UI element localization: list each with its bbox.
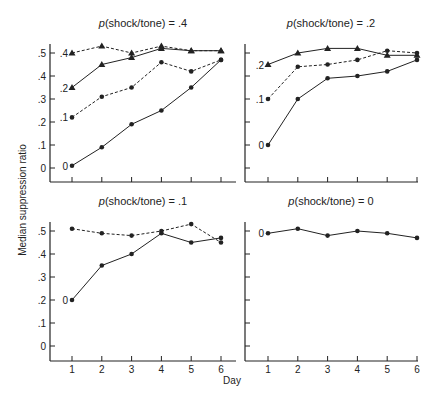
x-tick-label: 4 <box>159 364 165 375</box>
title-variable: p <box>287 195 294 207</box>
series-label: 0 <box>62 295 68 306</box>
x-tick-label: 1 <box>265 364 271 375</box>
title-condition: (shock/tone) = 0 <box>294 195 373 207</box>
dot-marker <box>159 60 164 65</box>
dot-marker <box>189 240 194 245</box>
title-condition: (shock/tone) = .1 <box>105 195 187 207</box>
panel-p01: p(shock/tone) = .1.5.4.3.2.101234560 <box>38 195 236 375</box>
dot-marker <box>100 263 105 268</box>
series-line <box>268 60 417 145</box>
dot-marker <box>266 143 271 148</box>
y-tick-label: .5 <box>38 48 47 59</box>
dot-marker <box>296 226 301 231</box>
dot-marker <box>296 97 301 102</box>
series-label: .2 <box>60 83 69 94</box>
dot-marker <box>70 163 75 168</box>
triangle-marker <box>69 84 76 90</box>
y-tick-label: .1 <box>38 140 47 151</box>
series-p2: .2 <box>60 45 225 94</box>
dot-marker <box>219 58 224 63</box>
dot-marker <box>415 236 420 241</box>
dot-marker <box>296 65 301 70</box>
x-tick-label: 6 <box>414 364 420 375</box>
x-tick-label: 2 <box>99 364 105 375</box>
dot-marker <box>70 298 75 303</box>
series-0: 0 <box>258 58 419 151</box>
dot-marker <box>159 108 164 113</box>
dot-marker <box>385 69 390 74</box>
x-tick-label: 5 <box>188 364 194 375</box>
dot-marker <box>70 115 75 120</box>
dot-marker <box>129 252 134 257</box>
panel-title: p(shock/tone) = .2 <box>286 17 375 29</box>
dot-marker <box>266 231 271 236</box>
dot-marker <box>219 240 224 245</box>
title-variable: p <box>98 17 105 29</box>
dot-marker <box>100 231 105 236</box>
y-tick-label: .1 <box>38 318 47 329</box>
dot-marker <box>129 85 134 90</box>
panel-title: p(shock/tone) = 0 <box>287 195 373 207</box>
dot-marker <box>355 229 360 234</box>
series-label: 0 <box>258 228 264 239</box>
dot-marker <box>266 97 271 102</box>
x-tick-label: 5 <box>384 364 390 375</box>
x-tick-label: 6 <box>218 364 224 375</box>
dot-marker <box>415 58 420 63</box>
panel-p00: p(shock/tone) = 01234560 <box>245 195 420 375</box>
title-variable: p <box>98 195 105 207</box>
x-tick-label: 2 <box>295 364 301 375</box>
y-tick-label: .3 <box>38 272 47 283</box>
dot-marker <box>219 236 224 241</box>
series-line <box>268 229 417 238</box>
x-tick-label: 1 <box>69 364 75 375</box>
dot-marker <box>189 85 194 90</box>
dot-marker <box>100 145 105 150</box>
x-tick-label: 3 <box>325 364 331 375</box>
series-label: .1 <box>256 94 265 105</box>
series-line <box>72 48 221 87</box>
series-line <box>72 60 221 118</box>
dot-marker <box>385 231 390 236</box>
panel-title: p(shock/tone) = .4 <box>98 17 187 29</box>
dot-marker <box>325 233 330 238</box>
dot-marker <box>159 231 164 236</box>
series-label: .1 <box>60 112 69 123</box>
triangle-marker <box>98 43 105 49</box>
x-tick-label: 3 <box>129 364 135 375</box>
y-tick-label: .3 <box>38 94 47 105</box>
series-p1: .1 <box>60 58 224 124</box>
title-condition: (shock/tone) = .4 <box>105 17 187 29</box>
series-p2: .2 <box>256 45 421 71</box>
y-axis-label: Median suppression ratio <box>17 144 28 256</box>
series-label: 0 <box>62 161 68 172</box>
dot-marker <box>129 233 134 238</box>
series-line <box>72 224 221 242</box>
dot-marker <box>355 74 360 79</box>
dot-marker <box>189 222 194 227</box>
series-line <box>72 46 221 53</box>
dot-marker <box>100 94 105 99</box>
series-0: 0 <box>62 231 223 306</box>
panel-p04: p(shock/tone) = .4.5.4.3.2.10.4.2.10 <box>38 17 236 182</box>
dot-marker <box>129 122 134 127</box>
dot-marker <box>355 58 360 63</box>
y-tick-label: .5 <box>38 226 47 237</box>
panel-title: p(shock/tone) = .1 <box>98 195 187 207</box>
x-axis-label: Day <box>223 375 241 386</box>
dot-marker <box>325 62 330 67</box>
series-label: .4 <box>60 48 69 59</box>
y-tick-label: .2 <box>38 117 47 128</box>
series-label: .2 <box>256 60 265 71</box>
series-line <box>72 233 221 300</box>
dot-marker <box>325 76 330 81</box>
series-0: 0 <box>258 226 419 240</box>
y-tick-label: .2 <box>38 295 47 306</box>
title-variable: p <box>286 17 293 29</box>
series-0: 0 <box>62 58 223 172</box>
series-p1: .1 <box>256 48 420 105</box>
x-tick-label: 4 <box>355 364 361 375</box>
suppression-ratio-figure: Median suppression ratio Day p(shock/ton… <box>0 0 436 401</box>
series-label: 0 <box>258 140 264 151</box>
dot-marker <box>415 51 420 56</box>
